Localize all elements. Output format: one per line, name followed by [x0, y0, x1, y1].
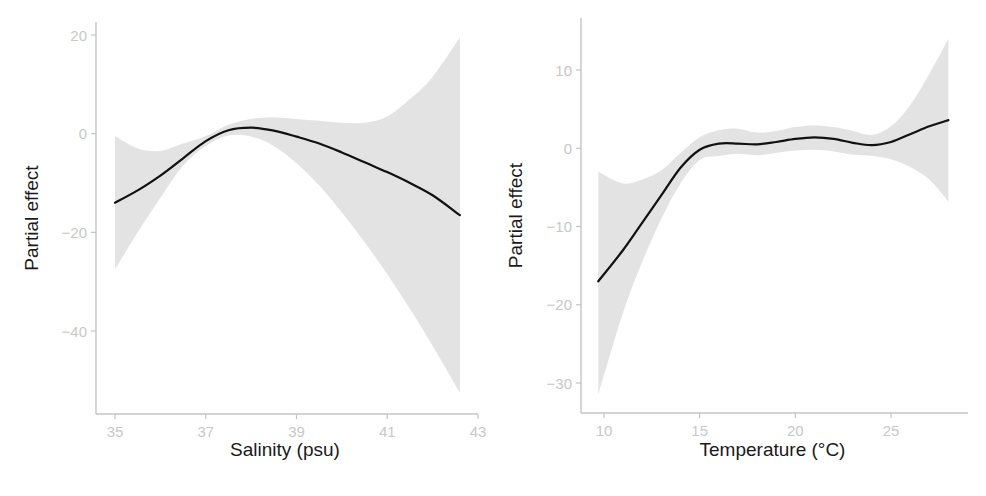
y-tick-label: −10 [547, 218, 572, 235]
y-axis-title: Partial effect [21, 165, 42, 271]
temperature-panel: 100−10−20−30 10152025 Temperature (°C) P… [505, 18, 968, 460]
x-tick-label: 43 [470, 423, 487, 440]
x-tick-label: 20 [787, 422, 804, 439]
confidence-band [115, 38, 460, 393]
x-tick-label: 10 [596, 422, 613, 439]
y-tick-label: −20 [62, 224, 87, 241]
x-ticks: 3537394143 [107, 414, 487, 440]
x-axis-title: Salinity (psu) [230, 439, 340, 460]
y-tick-label: 20 [70, 27, 87, 44]
y-tick-label: 0 [564, 140, 572, 157]
x-tick-label: 25 [883, 422, 900, 439]
y-tick-label: −40 [62, 323, 87, 340]
x-axis-title: Temperature (°C) [700, 439, 846, 460]
x-tick-label: 37 [197, 423, 214, 440]
y-tick-label: −30 [547, 375, 572, 392]
x-tick-label: 35 [107, 423, 124, 440]
figure: 200−20−40 3537394143 Salinity (psu) Part… [0, 0, 986, 496]
y-tick-label: 10 [555, 62, 572, 79]
y-axis-title: Partial effect [505, 162, 526, 268]
y-ticks: 200−20−40 [62, 27, 96, 340]
salinity-panel: 200−20−40 3537394143 Salinity (psu) Part… [21, 22, 486, 460]
confidence-band [598, 39, 948, 395]
x-tick-label: 15 [691, 422, 708, 439]
x-ticks: 10152025 [596, 413, 900, 439]
y-ticks: 100−10−20−30 [547, 62, 581, 392]
y-tick-label: 0 [79, 125, 87, 142]
x-tick-label: 39 [288, 423, 305, 440]
x-tick-label: 41 [379, 423, 396, 440]
y-tick-label: −20 [547, 296, 572, 313]
